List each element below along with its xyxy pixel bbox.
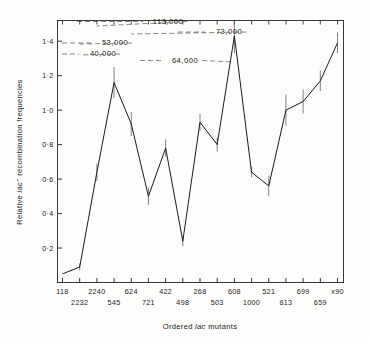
x-tick-label-upper: 268 <box>194 287 207 296</box>
figure-container: 0·20·40·60·81·01·21·4 118224062442226860… <box>0 0 370 343</box>
x-tick-label-lower: 721 <box>142 298 155 307</box>
x-tick-label-lower: 659 <box>314 298 327 307</box>
y-axis-title-post: recombination frequencies <box>15 79 24 178</box>
y-axis-title: Relative lac+ recombination frequencies <box>14 79 24 224</box>
y-axis-title-pre: Relative <box>15 192 24 224</box>
x-axis-title-post: mutants <box>206 322 238 331</box>
x-tick-label-upper: x90 <box>331 287 344 296</box>
x-tick-label-upper: 624 <box>125 287 138 296</box>
x-tick-label-upper: 422 <box>159 287 172 296</box>
x-tick-label-upper: 118 <box>56 287 68 296</box>
y-tick-label: 1·2 <box>42 71 53 80</box>
annotation-label: 64,000 <box>172 56 198 65</box>
annotation-label: 73,000 <box>216 27 242 36</box>
x-tick-label-lower: 813 <box>279 298 292 307</box>
annotation-label: 40,000 <box>90 49 116 58</box>
y-tick-label: 0·2 <box>42 244 53 253</box>
recombination-frequency-line-chart: 0·20·40·60·81·01·21·4 118224062442226860… <box>0 0 370 343</box>
x-tick-label-lower: 545 <box>108 298 121 307</box>
y-tick-label: 0·4 <box>42 209 53 218</box>
annotation-label: 53,000 <box>102 38 128 47</box>
annotation-label: 113,000 <box>153 17 183 26</box>
x-tick-label-upper: 699 <box>297 287 310 296</box>
x-tick-label-upper: 521 <box>262 287 275 296</box>
x-axis-tick-labels-upper: 1182240624422268608521699x90 <box>56 287 343 296</box>
x-tick-label-upper: 608 <box>228 287 241 296</box>
y-axis-title-italic: lac <box>15 182 24 193</box>
x-axis-title: Ordered lac mutants <box>163 322 238 331</box>
svg-text:Relative lac+ recombination fr: Relative lac+ recombination frequencies <box>14 79 24 224</box>
y-tick-label: 1·4 <box>42 37 53 46</box>
x-axis-title-italic: lac <box>195 322 206 331</box>
x-tick-label-lower: 503 <box>211 298 224 307</box>
x-tick-label-upper: 2240 <box>88 287 105 296</box>
x-tick-label-lower: 1000 <box>243 298 260 307</box>
y-tick-label: 0·8 <box>42 140 53 149</box>
x-tick-label-lower: 498 <box>176 298 189 307</box>
y-tick-label: 0·6 <box>42 175 53 184</box>
y-tick-label: 1·0 <box>42 106 53 115</box>
x-axis-title-pre: Ordered <box>163 322 195 331</box>
x-tick-label-lower: 2232 <box>71 298 88 307</box>
